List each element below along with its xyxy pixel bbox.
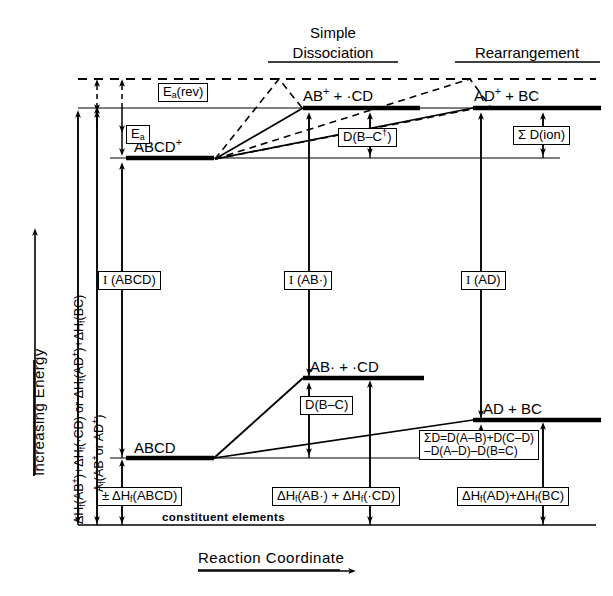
label-ea: Ea — [126, 125, 150, 144]
label-d-b-c-dagger: D(B–C†) — [338, 128, 397, 147]
label-sum-d-ion: Σ D(ion) — [513, 126, 570, 145]
path-dissoc-reverse-dashed — [215, 79, 303, 159]
label-delta-hf-ad-bc: ΔHf(AD)+ΔHf(BC) — [457, 487, 569, 506]
label-delta-hf-abcd: ± ΔHf(ABCD) — [97, 487, 182, 506]
level-label-ad-bc-neutral: AD + BC — [483, 401, 542, 416]
level-label-ab-ion-cd: AB+ + ·CD — [303, 88, 373, 103]
figure-canvas: Simple Dissociation Rearrangement ABCD+ … — [0, 0, 613, 596]
header-rearrangement: Rearrangement — [452, 44, 602, 61]
x-axis-label-reaction-coordinate: Reaction Coordinate — [198, 550, 344, 565]
label-delta-hf-ab-cd: ΔHf(AB·) + ΔHf(·CD) — [272, 487, 400, 506]
header-simple-dissociation-line2: Dissociation — [262, 44, 404, 61]
path-neutral-dissociation — [214, 378, 303, 458]
left-bracket-label-appearance-potential: Af(AB+or AD+) — [92, 414, 106, 492]
label-i-abcd: I (ABCD) — [98, 271, 161, 290]
label-d-b-c: D(B–C) — [300, 396, 353, 415]
label-i-ad: I (AD) — [461, 271, 506, 290]
label-ea-rev: Ea(rev) — [158, 83, 208, 102]
label-i-ab-radical: I (AB·) — [284, 271, 332, 290]
level-label-ad-ion-bc: AD+ + BC — [474, 88, 539, 103]
level-label-ab-radical-cd: AB· + ·CD — [310, 359, 379, 374]
left-bracket-label-delta-hf-products: ΔHf(AB+)+ΔHf(·CD) or ΔHf(AD+)+ΔHf(BC) — [72, 295, 86, 524]
y-axis-label-increasing-energy: Increasing Energy — [30, 348, 47, 476]
baseline-label-constituent-elements: constituent elements — [162, 512, 285, 524]
header-simple-dissociation-line1: Simple — [268, 24, 398, 41]
path-dissociation-solid — [215, 108, 303, 159]
level-label-abcd-neutral: ABCD — [134, 440, 176, 455]
label-sum-d-equation: ΣD=D(A–B)+D(C–D)–D(A–D)–D(B=C) — [419, 430, 539, 460]
